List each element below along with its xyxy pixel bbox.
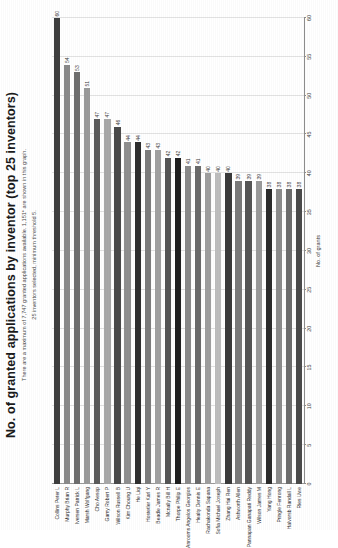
bar[interactable] [266,189,272,484]
category-label: Mcnally Bill H [165,487,171,517]
bar-value-label: 38 [296,182,302,189]
bar[interactable] [215,173,221,484]
x-tick-label-0: 0 [306,483,312,486]
bar[interactable] [276,189,282,484]
category-label: Thorpe Philip E [175,487,181,521]
bar[interactable] [205,173,211,484]
category-label: Ries Uwe [296,487,302,508]
bar-value-label: 42 [165,151,171,158]
bar[interactable] [296,189,302,484]
x-tick-label-10: 10 [306,403,312,409]
x-axis-title: No. of grants [315,18,321,484]
bar-row[interactable]: Zhang Hai Ren40 [225,18,231,484]
chart-subtitle-line-1: There are a maximum of 7,747 granted app… [21,0,28,530]
category-label: He Liqi [135,487,141,503]
bar-value-label: 43 [155,143,161,150]
x-tick-label-35: 35 [306,209,312,215]
x-tick-label-20: 20 [306,326,312,332]
category-label: Pannapan Ganapati Reddy [246,487,252,547]
bar-row[interactable]: Rachakonda Sapana40 [205,18,211,484]
bar[interactable] [104,119,110,484]
x-tick-label-60: 60 [306,15,312,21]
bar-row[interactable]: Ashworth Allen39 [235,18,241,484]
bar[interactable] [225,173,231,484]
x-tick-label-15: 15 [306,365,312,371]
bar[interactable] [175,158,181,484]
bar-value-label: 51 [84,81,90,88]
bar-value-label: 60 [54,11,60,18]
bar-row[interactable]: Beadle James R43 [155,18,161,484]
bar[interactable] [286,189,292,484]
bar[interactable] [245,181,251,484]
bar-row[interactable]: Healty Dennis E41 [195,18,201,484]
bar[interactable] [94,119,100,484]
x-tick-label-30: 30 [306,248,312,254]
bar[interactable] [165,158,171,484]
bar-row[interactable]: Marsh Wolfgang51 [84,18,90,484]
bar[interactable] [64,65,70,484]
bar[interactable] [256,181,262,484]
bar-row[interactable]: Iversen Patrick L53 [74,18,80,484]
category-label: Marsh Wolfgang [84,487,90,523]
x-tick-label-40: 40 [306,170,312,176]
category-label: Yang Hong [266,487,272,512]
bar-value-label: 47 [104,112,110,119]
bar-row[interactable]: Mcnally Bill H42 [165,18,171,484]
x-tick-label-50: 50 [306,93,312,99]
category-label: Murphy Brian R [64,487,70,522]
bar[interactable] [235,181,241,484]
bar-row[interactable]: Anrooms Angelos Georgios41 [185,18,191,484]
bar-row[interactable]: Hostetler Karl Y43 [145,18,151,484]
category-label: Gamy Robert P [104,487,110,521]
bar-row[interactable]: He Liqi44 [135,18,141,484]
category-label: Cho Aesop [94,487,100,511]
category-label: Rachakonda Sapana [205,487,211,534]
bar-row[interactable]: Wilson Russell B46 [114,18,120,484]
category-label: Beadle James R [155,487,161,524]
bar[interactable] [114,127,120,484]
bar-row[interactable]: Gamy Robert P47 [104,18,110,484]
bar-row[interactable]: Wilson James M39 [256,18,262,484]
bar[interactable] [145,150,151,484]
bar-value-label: 39 [256,174,262,181]
bar[interactable] [155,150,161,484]
bar[interactable] [124,142,130,484]
bar-value-label: 41 [195,159,201,166]
x-tick-label-45: 45 [306,132,312,138]
category-label: Sofia Michael Joseph [215,487,221,535]
category-label: Healty Dennis E [195,487,201,523]
category-label: Hostetler Karl Y [145,487,151,522]
chart-title: No. of granted applications by inventor … [4,0,18,530]
bar[interactable] [135,142,141,484]
bar-row[interactable]: Collins Peter L60 [54,18,60,484]
bar-value-label: 40 [215,166,221,173]
bar[interactable] [74,72,80,484]
bar[interactable] [54,18,60,484]
bar-row[interactable]: Ries Uwe38 [296,18,302,484]
bar-value-label: 39 [235,174,241,181]
bar-value-label: 44 [125,135,131,142]
category-label: Collins Peter L [54,487,60,520]
bar-row[interactable]: Pringle Fenrong38 [276,18,282,484]
bar-row[interactable]: Thorpe Philip E42 [175,18,181,484]
bar[interactable] [84,88,90,484]
bar[interactable] [185,166,191,484]
x-tick-label-55: 55 [306,54,312,60]
category-label: Halvorsb Randall L [286,487,292,529]
bar-value-label: 53 [74,65,80,72]
bar-value-label: 43 [145,143,151,150]
bar-row[interactable]: Kim Choung U44 [124,18,130,484]
bar-value-label: 38 [286,182,292,189]
category-label: Iversen Patrick L [74,487,80,524]
bar-row[interactable]: Sofia Michael Joseph40 [215,18,221,484]
bar-row[interactable]: Halvorsb Randall L38 [286,18,292,484]
bar-row[interactable]: Cho Aesop47 [94,18,100,484]
bar-value-label: 44 [135,135,141,142]
bar[interactable] [195,166,201,484]
bar-row[interactable]: Murphy Brian R54 [64,18,70,484]
bar-row[interactable]: Yang Hong38 [266,18,272,484]
x-tick-label-5: 5 [306,444,312,447]
bar-row[interactable]: Pannapan Ganapati Reddy39 [245,18,251,484]
